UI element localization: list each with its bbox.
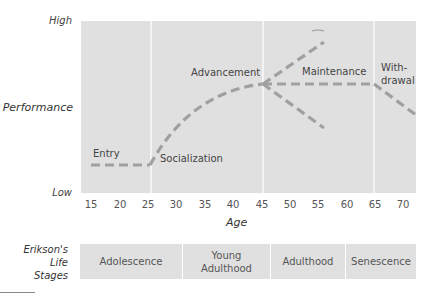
phase-label-maintenance: Maintenance — [302, 66, 366, 78]
erikson-stages-title: Erikson's Life Stages — [4, 243, 68, 282]
stage-label: Adulthood — [283, 255, 334, 268]
x-tick: 30 — [164, 199, 188, 210]
phase-label-entry: Entry — [93, 148, 120, 160]
x-tick: 25 — [136, 199, 160, 210]
stage-young-adulthood: YoungAdulthood — [183, 244, 271, 279]
maintenance-decline-line — [263, 84, 324, 128]
y-tick-high: High — [20, 15, 72, 26]
x-tick: 60 — [335, 199, 359, 210]
phase-label-advancement: Advancement — [191, 67, 260, 79]
phase-label-withdrawal-2: drawal — [381, 75, 415, 87]
stage-title-line: Life — [4, 256, 68, 269]
stage-title-line: Stages — [4, 269, 68, 282]
stage-label: Adolescence — [100, 255, 163, 268]
x-tick: 20 — [108, 199, 132, 210]
x-tick: 65 — [363, 199, 387, 210]
stage-label: Adulthood — [201, 262, 252, 275]
erikson-stages-row: Adolescence YoungAdulthood Adulthood Sen… — [80, 244, 416, 279]
stage-label: Young — [201, 249, 252, 262]
x-tick: 45 — [250, 199, 274, 210]
stage-adolescence: Adolescence — [80, 244, 183, 279]
x-tick: 40 — [221, 199, 245, 210]
x-axis-title: Age — [226, 216, 247, 229]
x-tick: 50 — [278, 199, 302, 210]
x-tick: 35 — [193, 199, 217, 210]
footnote-rule — [0, 292, 35, 293]
x-tick: 15 — [79, 199, 103, 210]
faint-mark — [312, 30, 324, 31]
x-tick: 70 — [391, 199, 415, 210]
y-tick-low: Low — [20, 187, 72, 198]
stage-title-line: Erikson's — [4, 243, 68, 256]
x-tick: 55 — [306, 199, 330, 210]
phase-label-socialization: Socialization — [160, 153, 223, 165]
withdrawal-line — [374, 84, 416, 115]
stage-adulthood: Adulthood — [271, 244, 346, 279]
stage-label: Senescence — [351, 255, 411, 268]
y-axis-title: Performance — [0, 101, 73, 114]
stage-senescence: Senescence — [346, 244, 416, 279]
phase-label-withdrawal-1: With- — [381, 62, 407, 74]
